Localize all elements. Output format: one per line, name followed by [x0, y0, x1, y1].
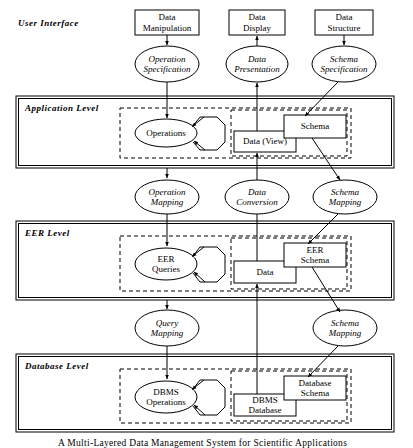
ellipse-label-operations: Operations — [135, 119, 197, 147]
ellipse-label-schema-mapping-lower: Schema Mapping — [313, 311, 377, 345]
box-label-data-manipulation: Data Manipulation — [135, 10, 199, 35]
label-user-interface: User Interface — [18, 18, 79, 28]
box-label-data-structure: Data Structure — [315, 10, 373, 35]
ellipse-label-data-presentation: Data Presentation — [226, 46, 288, 82]
box-label-database-schema: Database Schema — [284, 376, 346, 400]
box-label-application-schema: Schema — [284, 115, 346, 138]
ellipse-label-dbms-operations: DBMS Operations — [135, 381, 197, 413]
arrow-schemamapping-to-eer-schema — [308, 214, 338, 244]
box-label-data-display: Data Display — [229, 10, 285, 35]
ellipse-label-schema-mapping-upper: Schema Mapping — [313, 180, 377, 214]
box-label-eer-schema: EER Schema — [284, 243, 346, 267]
arrow-app-schema-to-schemamapping — [312, 138, 340, 180]
ellipse-label-operation-mapping: Operation Mapping — [135, 180, 199, 214]
label-database-level: Database Level — [25, 361, 89, 371]
label-application-level: Application Level — [25, 103, 99, 113]
ellipse-label-schema-specification: Schema Specification — [312, 46, 376, 82]
figure-caption: A Multi-Layered Data Management System f… — [58, 438, 347, 448]
ellipse-label-query-mapping: Query Mapping — [135, 311, 199, 345]
label-eer-level: EER Level — [25, 228, 70, 238]
ellipse-label-eer-queries: EER Queries — [135, 248, 197, 280]
ellipse-label-operation-specification: Operation Specification — [135, 46, 199, 82]
arrow-schemamapping-to-db-schema — [308, 346, 338, 377]
ellipse-label-data-conversion: Data Conversion — [225, 180, 289, 214]
